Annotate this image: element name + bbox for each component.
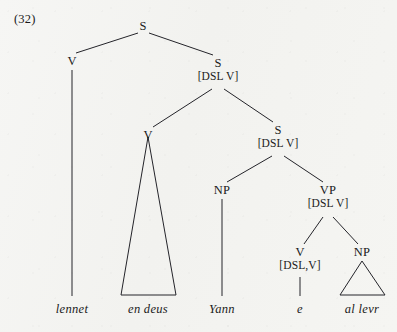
node-features: [DSL V]	[308, 198, 349, 210]
tree-node-s-third: S [DSL V]	[258, 124, 299, 150]
branch-vp-to-v	[304, 217, 323, 244]
node-category: NP	[214, 184, 230, 197]
terminal-al-levr: al levr	[345, 302, 379, 317]
node-category: NP	[354, 246, 370, 259]
triangle-al-levr	[340, 261, 385, 295]
node-features: [DSL V]	[198, 71, 239, 83]
node-features: [DSL,V]	[279, 260, 320, 272]
branch-s2-to-v	[153, 89, 212, 127]
branch-s3-to-np	[227, 156, 272, 182]
tree-node-v-endeus: V	[143, 129, 152, 142]
node-category: S	[139, 20, 146, 33]
node-category: S	[198, 57, 239, 70]
terminal-e: e	[297, 302, 303, 317]
branch-root-to-s2	[149, 33, 213, 55]
tree-node-s-root: S	[139, 20, 146, 33]
terminal-lennet: lennet	[56, 302, 88, 317]
node-category: S	[258, 124, 299, 137]
node-category: V	[67, 55, 76, 68]
node-category: VP	[308, 184, 349, 197]
branch-root-to-v	[76, 33, 138, 53]
node-category: V	[279, 246, 320, 259]
terminal-yann: Yann	[209, 302, 235, 317]
branch-vp-to-np	[333, 217, 358, 244]
node-features: [DSL V]	[258, 138, 299, 150]
figure-canvas: (32) S V S	[0, 0, 397, 332]
branch-s2-to-s3	[224, 89, 273, 122]
tree-branch-lines	[0, 0, 397, 332]
node-category: V	[143, 129, 152, 142]
tree-node-np-allevr: NP	[354, 246, 370, 259]
example-number: (32)	[14, 12, 36, 27]
terminal-en-deus: en deus	[128, 302, 168, 317]
tree-node-v-lennet: V	[67, 55, 76, 68]
tree-node-np-yann: NP	[214, 184, 230, 197]
tree-node-s-second: S [DSL V]	[198, 57, 239, 83]
tree-node-vp-main: VP [DSL V]	[308, 184, 349, 210]
tree-node-v-e: V [DSL,V]	[279, 246, 320, 272]
triangle-en-deus	[121, 137, 176, 295]
branch-s3-to-vp	[284, 156, 323, 182]
